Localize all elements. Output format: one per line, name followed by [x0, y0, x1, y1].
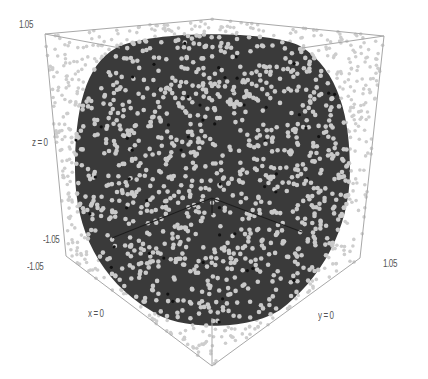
y-max-tick: 1.05: [383, 258, 397, 269]
z-min-tick: -1.05: [43, 234, 59, 245]
z-max-tick: 1.05: [19, 19, 33, 30]
y-axis-label: y = 0: [318, 310, 334, 321]
x-min-tick: -1.05: [27, 261, 43, 272]
scatter-3d-plot: [0, 0, 428, 379]
z-axis-label: z = 0: [32, 137, 48, 148]
x-axis-label: x = 0: [88, 308, 104, 319]
